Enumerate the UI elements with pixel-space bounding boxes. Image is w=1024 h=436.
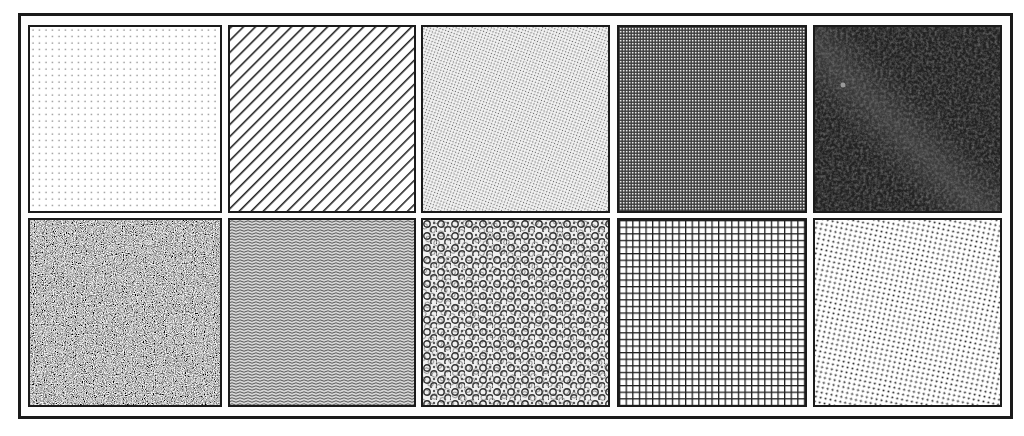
bubbles-pattern-icon [423,220,608,405]
dense-dots-pattern-icon [815,220,1000,405]
tile-fine-crosshatch: Dense fine crosshatch [617,25,807,213]
tile-salt-pepper-noise: Salt and pepper noise [28,218,222,407]
mottled-pattern-icon [815,27,1000,211]
tile-square-grid: Regular square grid [617,218,807,407]
square-grid-pattern-icon [619,220,805,405]
tile-wavy-lines: Fine wavy horizontal lines [228,218,416,407]
tile-diagonal-hatch: Diagonal line hatching [228,25,416,213]
tile-dark-mottled: Dark mottled texture [813,25,1002,213]
tile-bubbles: Bubble / ring texture [421,218,610,407]
tile-fine-stipple: Fine stipple swirl [421,25,610,213]
stipple-pattern-icon [423,27,608,211]
tile-sparse-dot-grid: Sparse regular dot grid [28,25,222,213]
noise-pattern-icon [30,220,220,405]
crosshatch-pattern-icon [619,27,805,211]
tile-dense-dots: Dense irregular dots [813,218,1002,407]
wavy-lines-pattern-icon [230,220,414,405]
diagonal-hatch-pattern-icon [230,27,414,211]
dot-grid-pattern-icon [30,27,220,211]
